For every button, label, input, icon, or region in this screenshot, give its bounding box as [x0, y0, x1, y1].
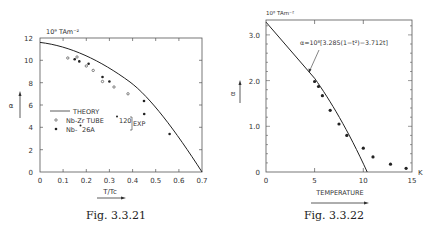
formula-annotation: α=10⁸[3.285(1−t²)−3.712t] [300, 39, 388, 46]
x-tick-label: 15 [408, 177, 417, 185]
unit-label: 10⁸ TAm⁻² [266, 10, 294, 16]
figure-3-3-21: 0 0.1 0.2 0.3 0.4 0.5 0.6 0.7 0 2 4 6 8 … [9, 28, 208, 222]
x-tick-label: 0 [264, 177, 268, 185]
x-axis-arrow-icon [97, 197, 126, 200]
legend-nb-ref: 26A [82, 126, 95, 134]
y-tick-label: 12 [24, 35, 33, 43]
y-tick-label: 8 [29, 80, 33, 88]
x-tick-label: 0.3 [104, 177, 115, 185]
y-tick-label: 0 [29, 169, 33, 177]
figure-caption: Fig. 3.3.22 [304, 209, 364, 222]
x-axis-label: T/Tc [102, 188, 117, 196]
legend-theory-label: THEORY [72, 108, 99, 116]
legend-tube-label: Nb-Zr TUBE [66, 117, 104, 125]
x-axis-ticks [63, 38, 179, 172]
y-tick-label: 0 [256, 169, 260, 177]
legend-nb-label: Nb- [66, 126, 78, 134]
legend-ref-dot-icon [116, 116, 118, 118]
x-tick-label: 0.5 [150, 177, 161, 185]
annotation-pointer [310, 50, 319, 70]
legend-filled-circle-icon [55, 128, 58, 131]
y-axis-label: α [229, 91, 237, 96]
unit-label: 10⁹ TAm⁻² [46, 28, 80, 36]
y-tick-label: 10 [24, 57, 33, 65]
plot-frame [40, 38, 202, 172]
x-tick-label: 0.6 [173, 177, 185, 185]
y-tick-label: 1.0 [249, 123, 260, 131]
x-tick-label: 0.2 [81, 177, 92, 185]
figure-caption: Fig. 3.3.21 [86, 209, 146, 222]
y-tick-label: 2 [29, 147, 33, 155]
y-tick-label: 6 [29, 102, 34, 110]
legend: THEORY Nb-Zr TUBE 120 Nb- 26A EXP [50, 108, 146, 134]
x-tick-label: 0.7 [196, 177, 207, 185]
y-axis-ticks [266, 26, 412, 163]
y-axis-arrow-icon [239, 80, 242, 103]
x-tick-label: 5 [312, 177, 316, 185]
legend-open-circle-icon [55, 119, 57, 121]
x-unit-label: K [418, 169, 423, 177]
y-axis-label: α [9, 102, 14, 110]
x-axis-label: TEMPERATURE [315, 189, 363, 197]
y-tick-label: 2.0 [249, 78, 260, 86]
x-tick-label: 0.1 [58, 177, 69, 185]
legend-tube-ref: 120 [119, 117, 131, 125]
x-tick-label: 10 [359, 177, 368, 185]
theory-curve [40, 42, 202, 172]
x-tick-label: 0.4 [127, 177, 139, 185]
x-tick-label: 0 [38, 177, 42, 185]
legend-exp-label: EXP [133, 120, 146, 128]
x-axis-arrow-icon [311, 202, 369, 205]
y-tick-label: 4 [29, 124, 34, 132]
y-tick-label: 3.0 [249, 32, 260, 40]
y-axis-arrow-icon [19, 91, 22, 118]
figure-3-3-22: 0 5 10 15 K 0 1.0 2.0 3.0 10⁸ TAm⁻² α TE… [229, 10, 423, 222]
